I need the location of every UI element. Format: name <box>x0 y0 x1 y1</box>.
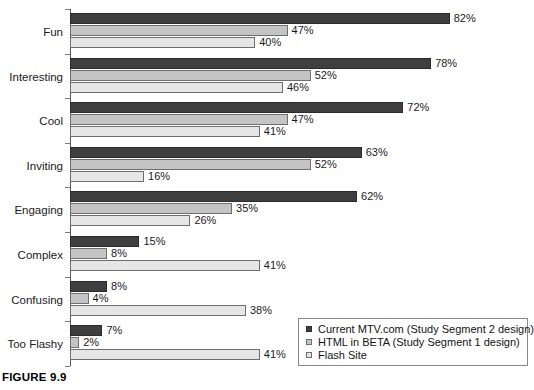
bar-row: 52% <box>70 70 530 81</box>
bar-group: Interesting78%52%46% <box>0 58 530 94</box>
bar <box>70 260 260 271</box>
category-label: Confusing <box>0 294 63 307</box>
bar <box>70 159 311 170</box>
axis-tick <box>65 143 70 144</box>
axis-tick <box>65 187 70 188</box>
bar <box>70 349 260 360</box>
bar-value-label: 47% <box>292 24 314 37</box>
bar-row: 40% <box>70 37 530 48</box>
axis-tick <box>65 54 70 55</box>
legend-label: HTML in BETA (Study Segment 1 design) <box>318 336 520 348</box>
bar-row: 8% <box>70 248 530 259</box>
bar-row: 78% <box>70 58 530 69</box>
bar-value-label: 4% <box>93 292 109 305</box>
bar-value-label: 72% <box>407 101 429 114</box>
bar-row: 47% <box>70 25 530 36</box>
legend-label: Flash Site <box>318 349 367 361</box>
figure-caption: FIGURE 9.9 <box>2 371 67 383</box>
legend-item: Current MTV.com (Study Segment 2 design) <box>306 323 521 335</box>
bar-row: 4% <box>70 293 530 304</box>
category-label: Cool <box>0 115 63 128</box>
bar-value-label: 35% <box>236 202 258 215</box>
bar-value-label: 41% <box>264 125 286 138</box>
bar-row: 52% <box>70 159 530 170</box>
legend-item: HTML in BETA (Study Segment 1 design) <box>306 336 521 348</box>
axis-tick <box>65 277 70 278</box>
bar-value-label: 2% <box>83 336 99 349</box>
bar <box>70 25 288 36</box>
bar-row: 16% <box>70 171 530 182</box>
bar-group: Engaging62%35%26% <box>0 191 530 227</box>
bar <box>70 102 403 113</box>
bar-row: 47% <box>70 114 530 125</box>
bar-value-label: 15% <box>143 235 165 248</box>
category-label: Engaging <box>0 204 63 217</box>
bar <box>70 114 288 125</box>
category-label: Interesting <box>0 71 63 84</box>
bar-value-label: 46% <box>287 81 309 94</box>
bar <box>70 215 190 226</box>
bar <box>70 82 283 93</box>
bar-row: 38% <box>70 305 530 316</box>
legend-swatch-medium <box>306 339 312 345</box>
category-label: Inviting <box>0 160 63 173</box>
axis-tick <box>65 232 70 233</box>
bar-row: 35% <box>70 203 530 214</box>
bar <box>70 171 144 182</box>
bar-group: Cool72%47%41% <box>0 102 530 138</box>
bar-row: 15% <box>70 236 530 247</box>
bar-value-label: 16% <box>148 170 170 183</box>
bar-row: 26% <box>70 215 530 226</box>
bar-value-label: 78% <box>435 57 457 70</box>
bar <box>70 70 311 81</box>
axis-tick <box>65 366 70 367</box>
bar-value-label: 63% <box>366 146 388 159</box>
legend-label: Current MTV.com (Study Segment 2 design) <box>318 323 534 335</box>
bar <box>70 13 450 24</box>
bar <box>70 236 139 247</box>
bar <box>70 58 431 69</box>
axis-tick <box>65 9 70 10</box>
bar-row: 62% <box>70 191 530 202</box>
bar-chart-plot: Fun82%47%40%Interesting78%52%46%Cool72%4… <box>0 0 530 366</box>
bar-value-label: 7% <box>106 324 122 337</box>
bar <box>70 248 107 259</box>
chart-legend: Current MTV.com (Study Segment 2 design)… <box>298 318 528 366</box>
axis-tick <box>65 321 70 322</box>
bar <box>70 147 362 158</box>
bar-value-label: 47% <box>292 113 314 126</box>
bar-group: Inviting63%52%16% <box>0 147 530 183</box>
bar-value-label: 41% <box>264 259 286 272</box>
bar-row: 82% <box>70 13 530 24</box>
bar <box>70 305 246 316</box>
bar <box>70 281 107 292</box>
bar <box>70 191 357 202</box>
category-label: Complex <box>0 249 63 262</box>
bar-value-label: 52% <box>315 69 337 82</box>
bar-value-label: 40% <box>259 36 281 49</box>
bar-value-label: 8% <box>111 247 127 260</box>
bar-value-label: 26% <box>194 214 216 227</box>
bar-group: Fun82%47%40% <box>0 13 530 49</box>
bar-row: 41% <box>70 126 530 137</box>
bar-value-label: 82% <box>454 12 476 25</box>
bar <box>70 337 79 348</box>
bar-row: 8% <box>70 281 530 292</box>
bar-value-label: 38% <box>250 304 272 317</box>
bar-row: 41% <box>70 260 530 271</box>
bar-value-label: 41% <box>264 348 286 361</box>
category-label: Fun <box>0 26 63 39</box>
bar <box>70 37 255 48</box>
bar <box>70 325 102 336</box>
bar-value-label: 52% <box>315 158 337 171</box>
axis-tick <box>65 98 70 99</box>
legend-swatch-light <box>306 352 312 358</box>
bar <box>70 126 260 137</box>
bar-value-label: 62% <box>361 190 383 203</box>
legend-swatch-dark <box>306 326 312 332</box>
bar-group: Complex15%8%41% <box>0 236 530 272</box>
category-label: Too Flashy <box>0 338 63 351</box>
legend-item: Flash Site <box>306 349 521 361</box>
bar <box>70 293 89 304</box>
